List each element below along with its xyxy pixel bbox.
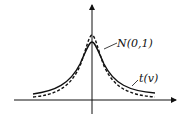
distribution-diagram: N(0,1) t(v): [0, 0, 185, 121]
normal-leader-line: [104, 43, 117, 49]
t-leader-line: [132, 80, 138, 86]
t-label: t(v): [139, 72, 158, 85]
normal-label: N(0,1): [116, 37, 153, 50]
